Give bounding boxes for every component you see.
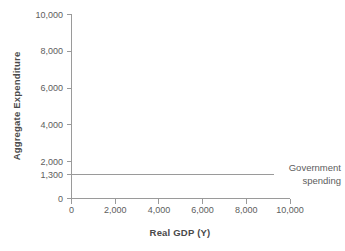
y-axis-title: Aggregate Expenditure <box>11 52 22 161</box>
x-tick-label-0: 0 <box>69 205 74 215</box>
x-tick-label-2000: 2,000 <box>104 205 127 215</box>
chart-canvas: 10,000 8,000 6,000 4,000 2,000 1,300 0 0… <box>0 0 345 251</box>
aggregate-expenditure-chart: 10,000 8,000 6,000 4,000 2,000 1,300 0 0… <box>0 0 345 251</box>
x-axis-title: Real GDP (Y) <box>150 227 211 238</box>
y-tick-label-6000: 6,000 <box>40 83 63 93</box>
y-tick-label-1300: 1,300 <box>40 170 63 180</box>
x-tick-label-10000: 10,000 <box>276 205 304 215</box>
y-tick-label-4000: 4,000 <box>40 120 63 130</box>
y-tick-label-2000: 2,000 <box>40 157 63 167</box>
x-tick-label-4000: 4,000 <box>148 205 171 215</box>
government-spending-annotation-line2: spending <box>302 175 341 186</box>
y-tick-label-8000: 8,000 <box>40 46 63 56</box>
y-tick-label-0: 0 <box>58 194 63 204</box>
x-tick-label-6000: 6,000 <box>191 205 214 215</box>
y-tick-label-10000: 10,000 <box>35 10 63 20</box>
x-tick-label-8000: 8,000 <box>235 205 258 215</box>
government-spending-annotation-line1: Government <box>289 162 342 173</box>
